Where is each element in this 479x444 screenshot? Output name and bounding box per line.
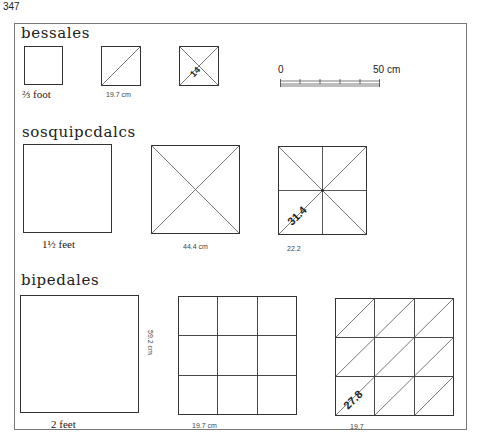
caption-bessales-cm: 19.7 cm: [106, 91, 131, 98]
brick-sesquipedales-plain: [23, 144, 112, 233]
brick-bessales-plain: [24, 46, 63, 85]
section-title-bessales: bessales: [21, 24, 90, 42]
scale-end-label: 50 cm: [373, 64, 400, 75]
caption-bipedales-grid-cm: 19.7 cm: [192, 422, 217, 429]
brick-sesquipedales-cross: [151, 145, 240, 234]
section-title-bipedales: bipedales: [21, 271, 99, 289]
scale-start-label: 0: [278, 64, 284, 75]
caption-sesquipedales-half: 22.2: [287, 245, 301, 252]
brick-bessales-diagonal: [101, 46, 141, 86]
scale-bar: [280, 79, 380, 89]
brick-bessales-cross: [179, 46, 219, 86]
caption-bipedales-feet: 2 feet: [51, 418, 76, 430]
section-title-sesquipedales: sosquipcdalcs: [22, 123, 136, 141]
brick-bipedales-grid: [178, 296, 297, 415]
caption-sesquipedales-cm: 44.4 cm: [183, 243, 208, 250]
caption-bessales-feet: ⅔ foot: [22, 88, 51, 100]
caption-sesquipedales-feet: 1½ feet: [42, 238, 75, 250]
brick-bipedales-plain: [20, 295, 139, 413]
caption-bipedales-grid-diag: 19.7: [350, 423, 364, 430]
side-label-bipedales: 59.2 cm: [147, 330, 154, 355]
page-number: 347: [3, 1, 20, 12]
